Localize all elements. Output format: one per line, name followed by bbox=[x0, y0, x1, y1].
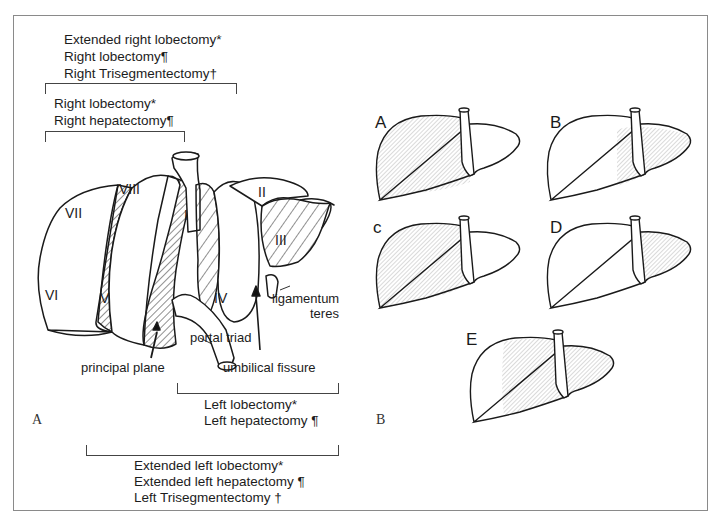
variant-b-label: B bbox=[550, 113, 561, 133]
variant-d-label: D bbox=[550, 218, 562, 238]
variant-e-label: E bbox=[466, 330, 477, 350]
variant-a-label: A bbox=[375, 113, 386, 133]
variant-c-label: c bbox=[373, 218, 382, 238]
panel-b-label: B bbox=[376, 412, 385, 427]
liver-resection-variants bbox=[0, 0, 721, 524]
